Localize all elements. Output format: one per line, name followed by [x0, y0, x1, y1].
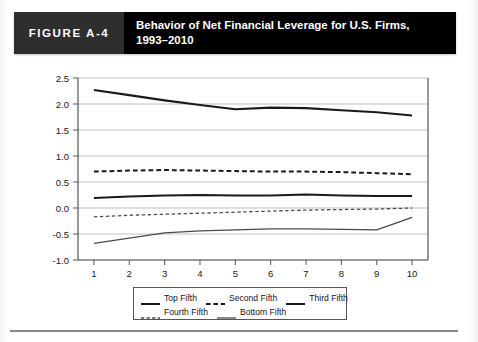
legend-entry-third-fifth: Third Fifth — [286, 293, 348, 303]
figure-title-block: Behavior of Net Financial Leverage for U… — [124, 12, 456, 54]
x-axis-tick-label: 10 — [407, 268, 418, 279]
y-axis-tick-label: 2.0 — [56, 99, 69, 110]
y-axis-tick-label: -0.5 — [52, 229, 69, 240]
y-axis-tick-label: -1.0 — [52, 255, 69, 266]
series-line-second-fifth — [94, 170, 412, 174]
y-axis-tick-label: 1.0 — [56, 151, 69, 162]
legend-label: Third Fifth — [309, 293, 348, 303]
y-axis-tick-label: 2.5 — [56, 73, 69, 84]
figure-title-line-2: 1993–2010 — [136, 33, 448, 48]
grid-lines — [78, 78, 428, 260]
series-line-fourth-fifth — [94, 208, 412, 217]
legend-swatch-icon — [206, 294, 225, 302]
x-axis-tick-labels: 12345678910 — [91, 268, 417, 279]
legend-entry-top-fifth: Top Fifth — [141, 293, 197, 303]
data-series-group — [94, 90, 412, 243]
x-axis-tick-label: 6 — [268, 268, 273, 279]
x-axis-tick-label: 2 — [127, 268, 132, 279]
chart-region: 2.52.01.51.00.50.0-0.5-1.0 12345678910 — [0, 60, 478, 318]
x-axis-tick-label: 7 — [303, 268, 308, 279]
series-line-top-fifth — [94, 90, 412, 115]
figure-title-line-1: Behavior of Net Financial Leverage for U… — [136, 18, 448, 33]
x-axis-tick-label: 1 — [91, 268, 96, 279]
legend-label: Bottom Fifth — [240, 307, 286, 317]
chart-legend: Top FifthSecond FifthThird FifthFourth F… — [133, 287, 347, 320]
legend-label: Second Fifth — [229, 293, 277, 303]
figure-number-block: FIGURE A-4 — [14, 12, 124, 54]
y-axis-tick-label: 0.0 — [56, 203, 69, 214]
legend-label: Fourth Fifth — [164, 307, 208, 317]
x-axis-tick-label: 5 — [233, 268, 238, 279]
series-line-bottom-fifth — [94, 217, 412, 243]
y-axis-tick-label: 0.5 — [56, 177, 69, 188]
legend-swatch-icon — [286, 294, 305, 302]
x-axis-tick-label: 4 — [197, 268, 203, 279]
legend-row: Top FifthSecond FifthThird Fifth — [141, 291, 339, 304]
line-chart: 2.52.01.51.00.50.0-0.5-1.0 12345678910 — [0, 60, 478, 318]
y-axis-ticks — [73, 78, 78, 260]
legend-swatch-icon — [217, 308, 236, 316]
x-axis-tick-label: 9 — [374, 268, 379, 279]
legend-row: Fourth FifthBottom Fifth — [141, 305, 339, 318]
y-axis-tick-labels: 2.52.01.51.00.50.0-0.5-1.0 — [52, 73, 69, 266]
x-axis-tick-label: 8 — [339, 268, 344, 279]
legend-entry-second-fifth: Second Fifth — [206, 293, 277, 303]
y-axis-tick-label: 1.5 — [56, 125, 69, 136]
legend-label: Top Fifth — [164, 293, 197, 303]
legend-swatch-icon — [141, 308, 160, 316]
figure-number-label: FIGURE A-4 — [29, 27, 110, 39]
x-axis-ticks — [94, 260, 412, 265]
x-axis-tick-label: 3 — [162, 268, 167, 279]
series-line-third-fifth — [94, 194, 412, 198]
legend-entry-fourth-fifth: Fourth Fifth — [141, 307, 208, 317]
plot-frame — [78, 78, 428, 260]
legend-entry-bottom-fifth: Bottom Fifth — [217, 307, 286, 317]
bottom-horizontal-rule — [10, 330, 458, 332]
figure-header-banner: FIGURE A-4 Behavior of Net Financial Lev… — [14, 12, 456, 54]
legend-swatch-icon — [141, 294, 160, 302]
